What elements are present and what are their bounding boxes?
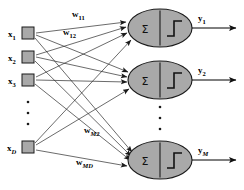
summation-symbol: Σ	[142, 155, 149, 168]
input-label-x3: x3	[8, 76, 17, 88]
ellipsis-dot	[27, 101, 30, 104]
connection-x2-n3	[35, 61, 131, 156]
ellipsis-dot	[159, 117, 162, 120]
connection-x3-n3	[35, 84, 130, 160]
connection-x2-n2	[36, 57, 127, 77]
input-label-x2: x2	[8, 53, 16, 65]
input-node-x1[interactable]	[22, 27, 34, 39]
input-ellipsis	[27, 101, 30, 126]
output-layer: y1 y2 yM	[192, 13, 236, 160]
ellipsis-dot	[27, 112, 30, 115]
weight-label-w11: w11	[72, 9, 85, 21]
neuron-n2[interactable]: Σ	[128, 61, 192, 99]
connection-lines	[35, 22, 132, 166]
input-node-xD[interactable]	[22, 141, 34, 153]
output-label-y2: y2	[198, 65, 206, 77]
input-node-x3[interactable]	[22, 74, 34, 86]
input-label-xD: xD	[7, 143, 17, 155]
connection-x3-n2	[36, 80, 127, 82]
neuron-n3[interactable]: Σ	[128, 141, 192, 179]
connection-xD-n2	[36, 89, 129, 145]
output-label-y1: y1	[198, 13, 206, 25]
output-label-yM: yM	[198, 145, 209, 157]
summation-symbol: Σ	[142, 23, 149, 36]
neural-network-diagram: x1 x2 x3 xD Σ Σ	[0, 0, 244, 190]
input-label-x1: x1	[8, 29, 16, 41]
summation-symbol: Σ	[142, 75, 149, 88]
neuron-n1[interactable]: Σ	[128, 9, 192, 47]
ellipsis-dot	[27, 123, 30, 126]
weight-label-wM2: wM2	[84, 125, 100, 137]
input-layer: x1 x2 x3 xD	[7, 27, 34, 155]
ellipsis-dot	[159, 128, 162, 131]
weight-labels: w11 w12 wM2 wMD	[63, 9, 100, 169]
ellipsis-dot	[159, 106, 162, 109]
input-node-x2[interactable]	[22, 51, 34, 63]
neuron-ellipsis	[159, 106, 162, 131]
